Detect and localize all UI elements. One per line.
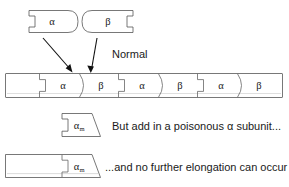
normal-filament: α β α β α β — [6, 74, 283, 98]
filament-segment-label: β — [177, 80, 182, 91]
figure-root: α β Normal — [0, 0, 289, 187]
free-beta-label: β — [105, 16, 110, 27]
filament-segment-label: α — [139, 80, 145, 91]
blocked-caption: ...and no further elongation can occur — [105, 161, 288, 173]
filament-segment-label: β — [256, 80, 261, 91]
arrow-beta-to-filament — [87, 38, 97, 73]
free-alpha-subunit-group: α — [29, 11, 78, 33]
arrow-beta-shaft — [92, 38, 98, 70]
filament-segment-label: α — [60, 80, 66, 91]
blocked-filament-body — [6, 155, 101, 178]
poison-caption: But add in a poisonous α subunit... — [112, 120, 281, 132]
arrow-alpha-shaft — [43, 38, 71, 70]
filament-segment-label: β — [98, 80, 103, 91]
arrow-beta-head — [87, 66, 94, 73]
free-beta-subunit-group: β — [82, 11, 133, 33]
normal-caption: Normal — [112, 48, 147, 60]
free-alpha-label: α — [49, 16, 55, 27]
alpha-m-subscript: m — [79, 125, 84, 132]
filament-segment-label: α — [218, 80, 224, 91]
poisonous-alpha-m-subunit: α m — [62, 114, 101, 137]
blocked-filament: α m — [6, 155, 101, 178]
arrow-alpha-to-filament — [43, 38, 73, 73]
blocked-cap-subscript: m — [79, 166, 84, 173]
